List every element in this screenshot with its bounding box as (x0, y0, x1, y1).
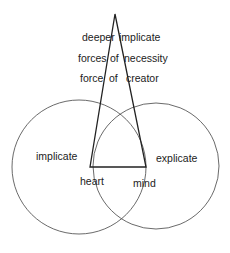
label-of-2: of (109, 73, 118, 84)
label-implicate-circle: implicate (36, 151, 77, 162)
label-mind: mind (133, 178, 156, 189)
label-necessity: necessity (124, 53, 168, 64)
label-forces: forces (78, 53, 107, 64)
label-of-1: of (110, 53, 119, 64)
label-deeper: deeper (82, 32, 115, 43)
label-explicate-circle: explicate (156, 153, 197, 164)
label-creator: creator (126, 73, 159, 84)
venn-triangle-diagram (0, 0, 230, 253)
label-heart: heart (80, 176, 104, 187)
label-force: force (80, 73, 103, 84)
label-implicate-top: implicate (119, 32, 160, 43)
explicate-circle (93, 103, 219, 229)
